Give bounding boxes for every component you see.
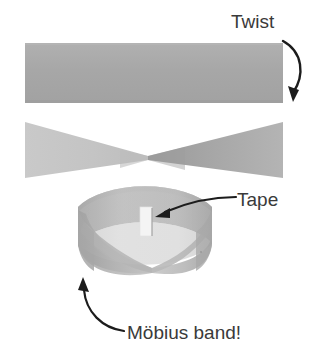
paper-strip-twisted bbox=[25, 122, 283, 178]
mobius-band-figure: Twist Tape Möbius band! bbox=[0, 0, 330, 364]
mobius-band-label: Möbius band! bbox=[127, 323, 241, 342]
mobius-band-loop bbox=[78, 186, 212, 275]
paper-strip-flat bbox=[25, 43, 283, 103]
flat-strip-illustration bbox=[0, 0, 330, 364]
twist-arrow bbox=[283, 41, 300, 102]
tape-label: Tape bbox=[237, 190, 278, 209]
twist-label: Twist bbox=[231, 12, 274, 31]
mobius-arrow bbox=[78, 277, 124, 331]
tape-strip bbox=[140, 207, 153, 236]
